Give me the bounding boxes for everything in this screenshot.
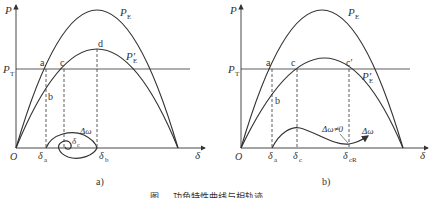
svg-text:c: c	[299, 156, 302, 164]
svg-text:a: a	[44, 156, 48, 164]
svg-text:c: c	[291, 57, 296, 68]
svg-text:P: P	[347, 6, 355, 18]
svg-text:P: P	[4, 4, 12, 16]
svg-text:δ: δ	[268, 150, 273, 161]
svg-text:b): b)	[322, 176, 330, 188]
svg-text:P: P	[119, 6, 127, 18]
svg-text:E: E	[133, 57, 137, 65]
figure-caption: 图 … 功角特性曲线与相轨迹	[150, 191, 263, 198]
svg-text:P: P	[229, 4, 237, 16]
panel-b-labels: P P E P′ E P T a b c c′ O δ a δ c δ cR Δ…	[227, 4, 426, 188]
svg-text:O: O	[10, 151, 17, 162]
svg-text:Δω: Δω	[361, 126, 374, 136]
svg-text:cR: cR	[349, 156, 357, 164]
panel-a-labels: P P E P′ E P T a b c d O δ a δ c δ b Δω …	[2, 4, 201, 188]
svg-text:E: E	[355, 13, 359, 21]
svg-text:δ: δ	[195, 149, 201, 161]
svg-text:Δω: Δω	[79, 126, 92, 136]
svg-text:O: O	[235, 151, 242, 162]
svg-text:a: a	[40, 57, 45, 68]
svg-text:Δω≠0: Δω≠0	[321, 124, 344, 134]
svg-text:b: b	[48, 91, 53, 102]
svg-text:T: T	[10, 70, 15, 78]
panel-a	[16, 5, 205, 158]
svg-text:E: E	[369, 77, 373, 85]
svg-text:a: a	[274, 156, 278, 164]
svg-text:T: T	[235, 70, 240, 78]
svg-text:c: c	[77, 142, 80, 148]
svg-text:δ: δ	[420, 149, 426, 161]
svg-text:a): a)	[96, 176, 104, 188]
pe-prime-curve	[241, 58, 403, 148]
svg-text:d: d	[98, 38, 103, 49]
figure: P P E P′ E P T a b c d O δ a δ c δ b Δω …	[0, 0, 432, 198]
svg-text:c: c	[60, 57, 65, 68]
svg-text:a: a	[266, 57, 271, 68]
svg-text:δ: δ	[293, 150, 298, 161]
svg-text:E: E	[127, 13, 131, 21]
svg-text:δ: δ	[343, 150, 348, 161]
svg-text:P: P	[227, 63, 235, 75]
svg-text:P: P	[2, 63, 10, 75]
svg-text:δ: δ	[99, 150, 104, 161]
svg-text:δ: δ	[38, 150, 43, 161]
trajectory-curve	[272, 128, 368, 148]
svg-text:b: b	[275, 95, 280, 106]
svg-text:b: b	[105, 156, 109, 164]
svg-text:c′: c′	[346, 57, 353, 68]
